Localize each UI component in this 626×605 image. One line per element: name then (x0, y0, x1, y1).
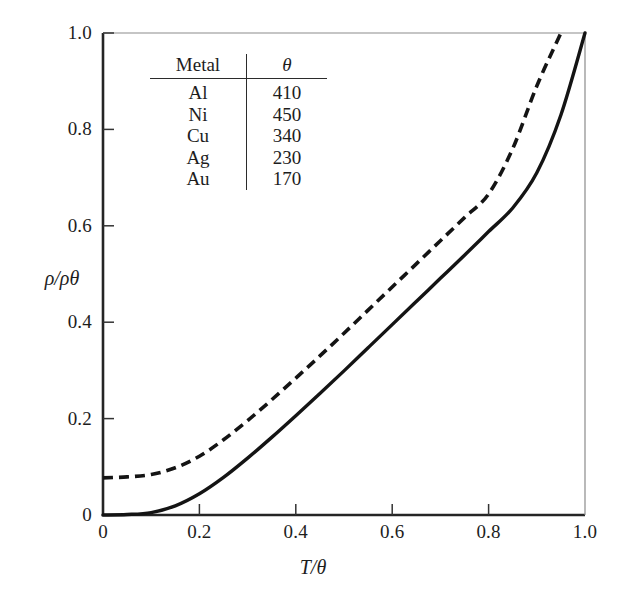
y-tick-label: 0.4 (30, 311, 92, 333)
cell-theta: 170 (247, 168, 328, 189)
cell-theta: 450 (247, 104, 328, 125)
y-tick-label: 0.6 (30, 215, 92, 237)
x-tick-marks (199, 504, 488, 515)
table-header-row: Metal θ (150, 54, 327, 79)
table-header: Metal θ (150, 54, 327, 79)
debye-temperature-table: Metal θ Al410Ni450Cu340Ag230Au170 (150, 54, 327, 190)
table-row: Ni450 (150, 104, 327, 125)
resistivity-chart-figure: 00.20.40.60.81.0 00.20.40.60.81.0 ρ/ρθ T… (0, 0, 626, 605)
cell-theta: 410 (247, 79, 328, 104)
x-tick-label: 0.6 (380, 521, 404, 543)
cell-metal: Ag (150, 147, 247, 168)
y-tick-label: 1.0 (30, 22, 92, 44)
y-tick-label: 0 (30, 504, 92, 526)
table-row: Ag230 (150, 147, 327, 168)
y-axis-title: ρ/ρθ (26, 267, 98, 290)
x-tick-label: 1.0 (573, 521, 597, 543)
x-tick-label: 0 (98, 521, 108, 543)
x-tick-label: 0.8 (476, 521, 500, 543)
y-tick-label: 0.8 (30, 118, 92, 140)
cell-theta: 340 (247, 125, 328, 146)
cell-metal: Cu (150, 125, 247, 146)
column-header-metal: Metal (150, 54, 247, 79)
y-tick-label: 0.2 (30, 408, 92, 430)
table-row: Al410 (150, 79, 327, 104)
table-row: Cu340 (150, 125, 327, 146)
cell-metal: Ni (150, 104, 247, 125)
cell-metal: Au (150, 168, 247, 189)
x-tick-label: 0.4 (284, 521, 308, 543)
table-body: Al410Ni450Cu340Ag230Au170 (150, 79, 327, 190)
x-axis-title: T/θ (0, 556, 626, 579)
column-header-theta: θ (247, 54, 328, 79)
table-row: Au170 (150, 168, 327, 189)
cell-theta: 230 (247, 147, 328, 168)
y-tick-marks (103, 33, 114, 419)
x-tick-label: 0.2 (187, 521, 211, 543)
cell-metal: Al (150, 79, 247, 104)
